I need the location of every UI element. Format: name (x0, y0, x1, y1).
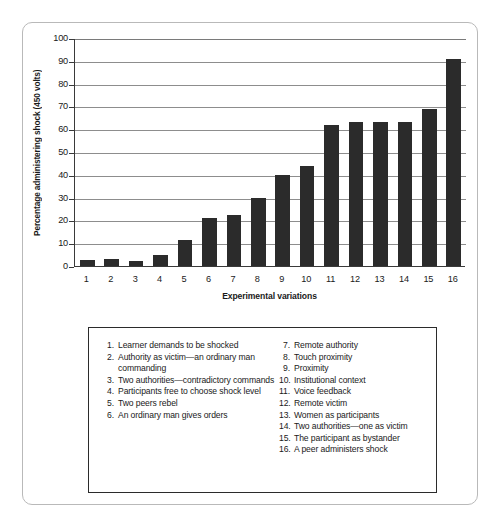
legend-item-label: Learner demands to be shocked (118, 340, 275, 352)
bar (80, 260, 95, 266)
bar (324, 125, 339, 266)
x-axis-tick-label: 7 (230, 275, 235, 284)
legend-item-number: 8. (279, 352, 294, 364)
y-axis-tick-label: 100 (44, 34, 68, 43)
legend-box: 1.Learner demands to be shocked2.Authori… (88, 327, 437, 493)
bar (446, 59, 461, 266)
bar-chart: Percentage administering shock (450 volt… (0, 0, 489, 320)
legend-item-number: 16. (279, 444, 294, 456)
bar (129, 261, 144, 266)
legend-item-label: A peer administers shock (294, 444, 429, 456)
gridline (75, 62, 466, 63)
legend-item: 12.Remote victim (279, 398, 429, 410)
legend-item: 1.Learner demands to be shocked (103, 340, 275, 352)
x-axis-tick-label: 5 (182, 275, 187, 284)
x-axis-tick-label: 16 (448, 275, 458, 284)
x-axis-title: Experimental variations (74, 291, 465, 301)
legend-item-label: Remote authority (294, 340, 429, 352)
bar (349, 122, 364, 266)
legend-item-number: 4. (103, 386, 118, 398)
gridline (75, 85, 466, 86)
y-axis-tick-label: 30 (44, 194, 68, 203)
bar (104, 259, 119, 266)
y-axis-tick-label: 90 (44, 57, 68, 66)
legend-item-number: 15. (279, 433, 294, 445)
legend-item: 14.Two authorities—one as victim (279, 421, 429, 433)
legend-item-label: Institutional context (294, 375, 429, 387)
legend-item: 9.Proximity (279, 363, 429, 375)
gridline (75, 107, 466, 108)
bar (202, 218, 217, 266)
x-axis-tick-label: 13 (375, 275, 385, 284)
legend-item-number: 1. (103, 340, 118, 352)
legend-item-number: 2. (103, 352, 118, 364)
legend-item: 5.Two peers rebel (103, 398, 275, 410)
legend-item-label: Two authorities—one as victim (294, 421, 429, 433)
legend-item: 13.Women as participants (279, 410, 429, 422)
x-axis-tick-label: 3 (133, 275, 138, 284)
bar (275, 175, 290, 266)
legend-item-number: 10. (279, 375, 294, 387)
legend-column-left: 1.Learner demands to be shocked2.Authori… (103, 340, 275, 421)
x-axis-tick-label: 4 (157, 275, 162, 284)
x-axis-tick-label: 2 (108, 275, 113, 284)
y-axis-tick-label: 60 (44, 126, 68, 135)
legend-item-label: Voice feedback (294, 386, 429, 398)
bar (227, 215, 242, 266)
legend-item-label: Women as participants (294, 410, 429, 422)
x-axis-tick-label: 9 (279, 275, 284, 284)
bar (251, 198, 266, 266)
legend-item-number: 5. (103, 398, 118, 410)
legend-item-number: 14. (279, 421, 294, 433)
legend-item: 8.Touch proximity (279, 352, 429, 364)
legend-item-number: 7. (279, 340, 294, 352)
x-axis-tick-label: 11 (326, 275, 335, 284)
y-axis-tick-label: 50 (44, 148, 68, 157)
x-axis-tick-label: 15 (423, 275, 433, 284)
legend-item: 3.Two authorities—contradictory commands (103, 375, 275, 387)
bar (300, 166, 315, 266)
legend-item: 2.Authority as victim—an ordinary man co… (103, 352, 275, 375)
x-axis-tick-label: 12 (350, 275, 360, 284)
x-axis-tick-label: 8 (255, 275, 260, 284)
legend-item-label: Two peers rebel (118, 398, 275, 410)
legend-item: 7.Remote authority (279, 340, 429, 352)
y-axis-tick-label: 20 (44, 217, 68, 226)
legend-item-label: Remote victim (294, 398, 429, 410)
legend-item-number: 9. (279, 363, 294, 375)
bar (398, 122, 413, 266)
legend-item-number: 3. (103, 375, 118, 387)
legend-item-label: Touch proximity (294, 352, 429, 364)
y-axis-tick-label: 80 (44, 80, 68, 89)
y-axis-title: Percentage administering shock (450 volt… (30, 39, 44, 267)
legend-item-label: Authority as victim—an ordinary man comm… (118, 352, 275, 375)
legend-item-number: 6. (103, 410, 118, 422)
x-axis-tick-label: 1 (84, 275, 89, 284)
legend-item: 6.An ordinary man gives orders (103, 410, 275, 422)
legend-item-label: An ordinary man gives orders (118, 410, 275, 422)
x-axis-tick-label: 10 (301, 275, 311, 284)
legend-item-number: 12. (279, 398, 294, 410)
bar (178, 240, 193, 266)
legend-item: 16.A peer administers shock (279, 444, 429, 456)
legend-item-number: 11. (279, 386, 294, 398)
legend-item: 11.Voice feedback (279, 386, 429, 398)
legend-item-number: 13. (279, 410, 294, 422)
legend-item: 15.The participant as bystander (279, 433, 429, 445)
legend-item: 10.Institutional context (279, 375, 429, 387)
y-axis-tick-label: 70 (44, 103, 68, 112)
plot-area (74, 39, 465, 267)
x-axis-tick-label: 14 (399, 275, 409, 284)
legend-item-label: The participant as bystander (294, 433, 429, 445)
x-axis-tick-label: 6 (206, 275, 211, 284)
legend-item: 4.Participants free to choose shock leve… (103, 386, 275, 398)
figure-container: Percentage administering shock (450 volt… (0, 0, 489, 523)
legend-item-label: Participants free to choose shock level (118, 386, 275, 398)
bar (422, 109, 437, 266)
legend-column-right: 7.Remote authority8.Touch proximity9.Pro… (279, 340, 429, 456)
legend-item-label: Proximity (294, 363, 429, 375)
y-axis-tick-label: 40 (44, 171, 68, 180)
y-axis-tick-label: 0 (44, 262, 68, 271)
y-axis-tick-label: 10 (44, 240, 68, 249)
y-axis-tick-mark (69, 267, 74, 268)
